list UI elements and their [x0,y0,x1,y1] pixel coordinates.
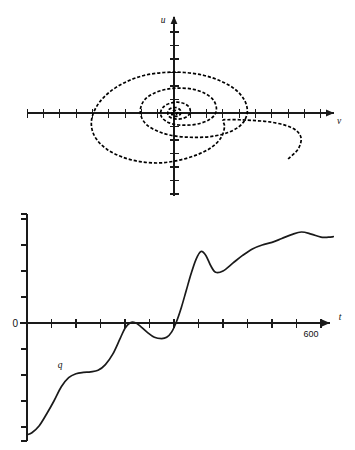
phase-axes [27,16,334,196]
time-series-panel: 0 600 t q [0,205,355,450]
figure-root: u v 0 600 t q [0,0,355,450]
phase-x-axis-label: v [337,116,342,126]
time-x-axis-label: t [339,312,342,322]
time-curve-label-q: q [58,360,63,370]
phase-portrait-panel: u v [0,0,355,205]
time-axes [20,214,330,441]
phase-y-axis-arrowhead [171,16,178,24]
phase-y-axis-label: u [161,15,166,25]
time-end-tick-label: 600 [303,329,318,339]
time-series-curve [27,232,333,435]
time-y-ticks [21,214,27,441]
time-series-svg: 0 600 t q [0,205,355,450]
phase-portrait-svg: u v [0,0,355,205]
time-x-axis-arrowhead [322,320,330,327]
phase-x-axis-arrowhead [326,110,334,117]
time-zero-label: 0 [12,318,18,329]
phase-trajectory-curve [91,72,301,163]
